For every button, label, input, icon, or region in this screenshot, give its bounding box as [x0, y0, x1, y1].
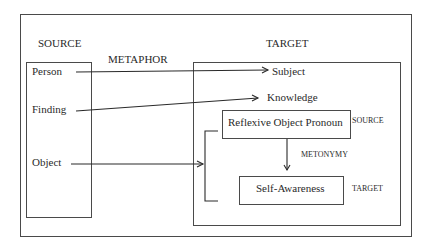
connector-arrows	[0, 0, 429, 252]
